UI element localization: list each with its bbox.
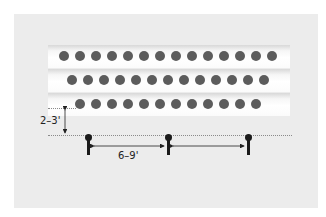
post-stem xyxy=(167,139,170,155)
post-stem xyxy=(87,139,90,155)
post-stem xyxy=(247,139,250,155)
dimension-arrows xyxy=(0,0,326,217)
row-to-post-distance-label: 2–3' xyxy=(40,115,60,126)
post-spacing-label: 6–9' xyxy=(118,150,138,161)
